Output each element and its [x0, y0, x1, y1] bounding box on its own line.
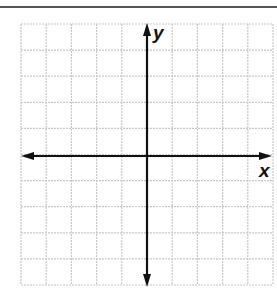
coordinate-plane — [0, 0, 277, 295]
y-axis-label: y — [153, 23, 164, 42]
x-axis-label: x — [259, 161, 270, 180]
x-axis-right-arrow-icon — [259, 152, 272, 160]
y-axis-up-arrow-icon — [143, 23, 151, 36]
x-axis-left-arrow-icon — [21, 152, 34, 160]
